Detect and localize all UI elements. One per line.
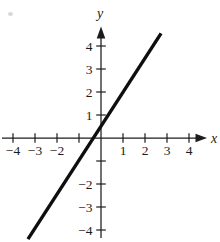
y-axis-arrowhead-icon: [97, 27, 106, 39]
x-axis-title: x: [210, 131, 218, 146]
x-tick-label: −4: [6, 143, 21, 158]
y-tick-label: −3: [78, 200, 93, 215]
y-axis-title: y: [95, 6, 104, 21]
x-tick-label: 2: [142, 143, 149, 158]
y-tick-label: 1: [86, 108, 93, 123]
x-tick-label: −2: [50, 143, 64, 158]
plotted-line: [28, 33, 161, 239]
graph-figure: −4−3−21234−4−3−21234xy: [0, 0, 220, 242]
x-tick-label: 3: [164, 143, 171, 158]
y-tick-label: 4: [86, 39, 93, 54]
y-tick-label: 3: [86, 62, 93, 77]
y-tick-label: 2: [86, 85, 93, 100]
x-tick-label: 4: [186, 143, 193, 158]
x-tick-label: −3: [28, 143, 43, 158]
y-tick-label: −4: [78, 223, 93, 238]
x-tick-label: 1: [120, 143, 127, 158]
y-tick-label: −2: [78, 177, 92, 192]
x-axis-arrowhead-icon: [196, 134, 208, 143]
graph-canvas: −4−3−21234−4−3−21234xy: [0, 0, 220, 242]
